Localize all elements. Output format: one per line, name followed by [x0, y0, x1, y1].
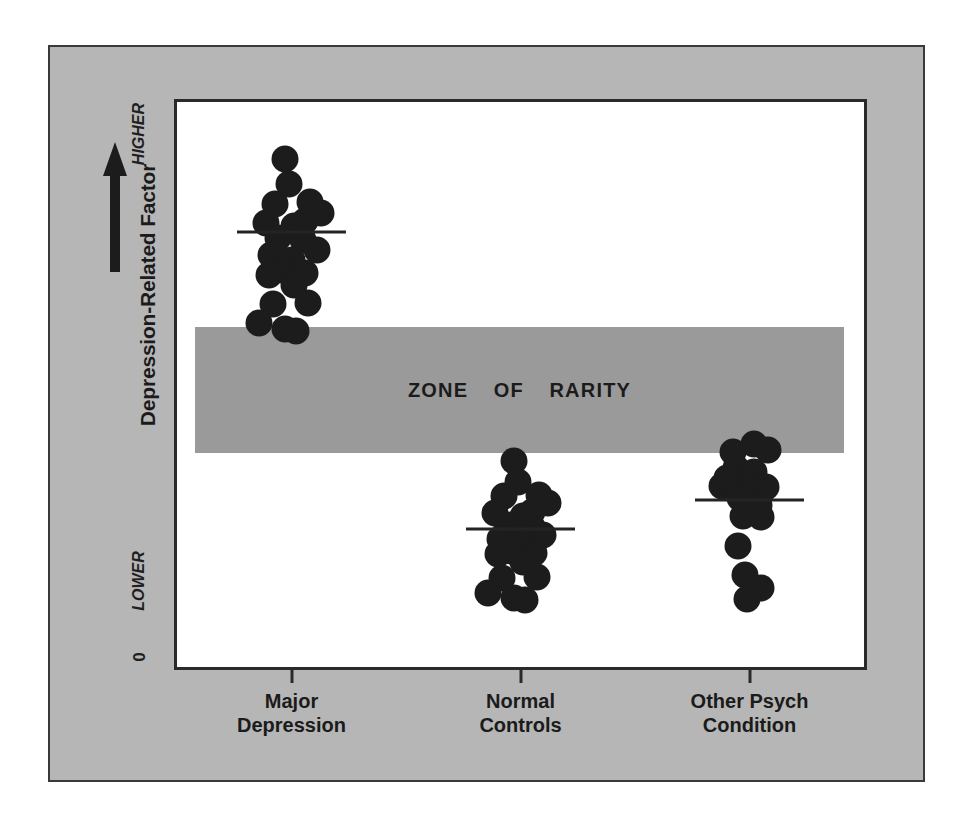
scatter-dot [484, 541, 511, 568]
scatter-dot [734, 586, 761, 613]
up-arrow-icon [102, 142, 128, 272]
y-axis-title: Depression-Related Factor [136, 145, 160, 445]
scatter-dot [246, 309, 273, 336]
mean-line [466, 527, 576, 530]
plot-area: ZONE OF RARITY [177, 102, 864, 667]
scatter-dot [518, 498, 545, 525]
mean-line [237, 230, 347, 233]
scatter-dot [725, 533, 752, 560]
x-axis-category-label: Normal Controls [479, 690, 561, 737]
x-axis-tick [748, 670, 751, 683]
scatter-dot [255, 261, 282, 288]
y-axis-lower-label: LOWER [130, 536, 148, 626]
figure-panel: Depression-Related Factor HIGHER LOWER 0… [48, 45, 925, 782]
scatter-dot [713, 465, 740, 492]
scatter-dot [475, 579, 502, 606]
scatter-dot [512, 586, 539, 613]
x-axis-category-label: Other Psych Condition [691, 690, 809, 737]
zone-of-rarity-label: ZONE OF RARITY [195, 379, 844, 402]
scatter-dot [747, 504, 774, 531]
plot-frame: ZONE OF RARITY [174, 99, 867, 670]
y-axis-zero-label: 0 [130, 637, 150, 677]
mean-line [695, 499, 805, 502]
figure-canvas: Depression-Related Factor HIGHER LOWER 0… [0, 0, 975, 819]
x-axis-tick [290, 670, 293, 683]
scatter-dot [271, 145, 298, 172]
x-axis-tick [519, 670, 522, 683]
scatter-dot [294, 289, 321, 316]
x-axis-category-label: Major Depression [237, 690, 346, 737]
y-axis-higher-label: HIGHER [130, 89, 148, 179]
scatter-dot [283, 318, 310, 345]
